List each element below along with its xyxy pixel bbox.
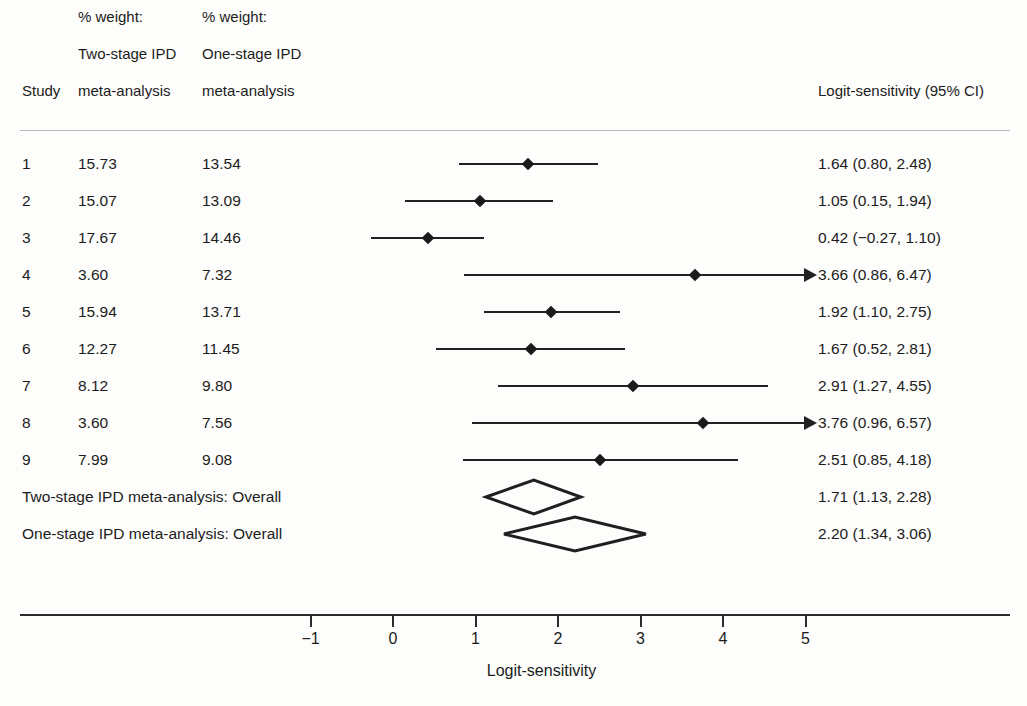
x-axis-title-text: Logit-sensitivity (487, 662, 596, 679)
row-study-label: 3 (22, 229, 31, 247)
point-estimate-marker (522, 158, 535, 171)
x-axis-tick (640, 616, 642, 627)
row-weight-one-stage: 11.45 (202, 340, 240, 358)
x-axis-tick (557, 616, 559, 627)
row-weight-one-stage: 9.08 (202, 451, 232, 469)
confidence-interval-line (464, 274, 805, 276)
confidence-interval-line (472, 422, 805, 424)
x-axis-tick-label: 0 (389, 630, 398, 648)
header-study: Study (22, 82, 60, 99)
row-weight-one-stage: 13.09 (202, 192, 241, 210)
row-study-label: 6 (22, 340, 31, 358)
row-weight-one-stage: 14.46 (202, 229, 241, 247)
row-ci-text: 2.51 (0.85, 4.18) (818, 451, 932, 469)
ci-truncation-arrow-icon (804, 268, 817, 282)
header-weight2-line3: meta-analysis (202, 82, 295, 99)
row-ci-text: 1.92 (1.10, 2.75) (818, 303, 932, 321)
row-study-label: 7 (22, 377, 31, 395)
x-axis-line (20, 614, 1010, 616)
row-ci-text: 3.76 (0.96, 6.57) (818, 414, 932, 432)
x-axis-tick-label: 3 (636, 630, 645, 648)
summary-label: One-stage IPD meta-analysis: Overall (22, 525, 282, 543)
row-ci-text: 1.05 (0.15, 1.94) (818, 192, 932, 210)
x-axis-tick-label: −1 (301, 630, 319, 648)
row-weight-one-stage: 13.54 (202, 155, 241, 173)
row-ci-text: 0.42 (−0.27, 1.10) (818, 229, 941, 247)
row-weight-two-stage: 12.27 (78, 340, 117, 358)
header-divider-rule (20, 130, 1010, 131)
point-estimate-marker (421, 232, 434, 245)
header-weight1-line1: % weight: (78, 8, 143, 25)
forest-plot: Study % weight: Two-stage IPD meta-analy… (0, 0, 1027, 706)
x-axis-tick (310, 616, 312, 627)
row-ci-text: 2.91 (1.27, 4.55) (818, 377, 932, 395)
x-axis-tick-label: 5 (801, 630, 810, 648)
point-estimate-marker (473, 195, 486, 208)
row-study-label: 4 (22, 266, 31, 284)
x-axis-tick (805, 616, 807, 627)
point-estimate-marker (545, 306, 558, 319)
row-weight-one-stage: 9.80 (202, 377, 232, 395)
x-axis-tick-label: 2 (554, 630, 563, 648)
summary-diamond (483, 477, 584, 517)
row-weight-two-stage: 15.07 (78, 192, 117, 210)
row-ci-text: 3.66 (0.86, 6.47) (818, 266, 932, 284)
x-axis-tick (722, 616, 724, 627)
header-ci: Logit-sensitivity (95% CI) (818, 82, 984, 99)
row-weight-two-stage: 17.67 (78, 229, 117, 247)
row-weight-two-stage: 3.60 (78, 414, 108, 432)
row-study-label: 9 (22, 451, 31, 469)
x-axis-title: Logit-sensitivity (0, 662, 1027, 680)
row-ci-text: 1.67 (0.52, 2.81) (818, 340, 932, 358)
header-weight2-line2: One-stage IPD (202, 45, 301, 62)
summary-ci-text: 1.71 (1.13, 2.28) (818, 488, 932, 506)
ci-truncation-arrow-icon (804, 416, 817, 430)
row-weight-one-stage: 13.71 (202, 303, 241, 321)
point-estimate-marker (689, 269, 702, 282)
row-weight-two-stage: 15.73 (78, 155, 117, 173)
point-estimate-marker (627, 380, 640, 393)
row-weight-two-stage: 15.94 (78, 303, 117, 321)
summary-diamond (501, 514, 649, 554)
row-weight-one-stage: 7.32 (202, 266, 232, 284)
summary-label: Two-stage IPD meta-analysis: Overall (22, 488, 281, 506)
point-estimate-marker (524, 343, 537, 356)
row-study-label: 2 (22, 192, 31, 210)
point-estimate-marker (594, 454, 607, 467)
row-study-label: 1 (22, 155, 31, 173)
x-axis-tick (392, 616, 394, 627)
row-weight-one-stage: 7.56 (202, 414, 232, 432)
row-ci-text: 1.64 (0.80, 2.48) (818, 155, 932, 173)
x-axis-tick-label: 4 (719, 630, 728, 648)
row-study-label: 5 (22, 303, 31, 321)
summary-ci-text: 2.20 (1.34, 3.06) (818, 525, 932, 543)
x-axis-tick (475, 616, 477, 627)
header-weight1-line3: meta-analysis (78, 82, 171, 99)
x-axis-tick-label: 1 (471, 630, 480, 648)
row-weight-two-stage: 3.60 (78, 266, 108, 284)
header-weight2-line1: % weight: (202, 8, 267, 25)
row-study-label: 8 (22, 414, 31, 432)
header-weight1-line2: Two-stage IPD (78, 45, 176, 62)
row-weight-two-stage: 7.99 (78, 451, 108, 469)
point-estimate-marker (697, 417, 710, 430)
row-weight-two-stage: 8.12 (78, 377, 108, 395)
